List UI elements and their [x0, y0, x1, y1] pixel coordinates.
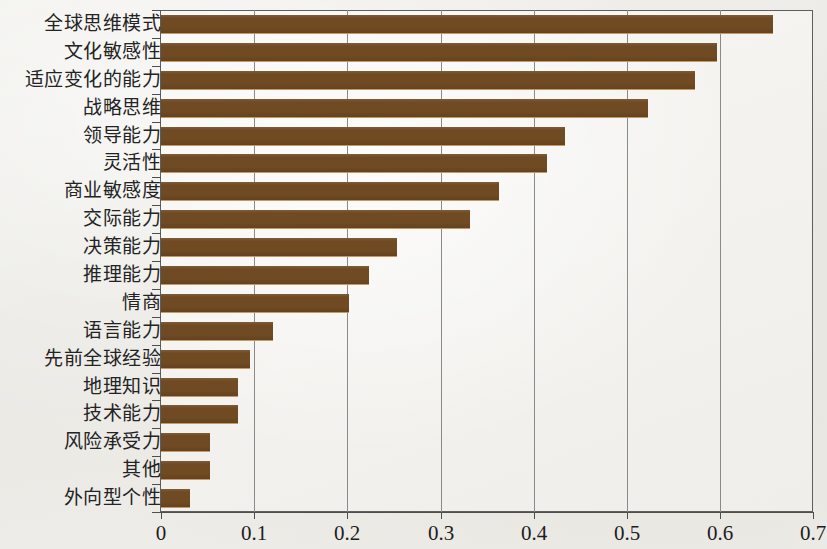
- bar: [161, 378, 238, 397]
- bar: [161, 489, 190, 508]
- y-axis-label: 适应变化的能力: [25, 70, 162, 89]
- x-axis-tick-label: 0.4: [504, 521, 564, 545]
- bar: [161, 266, 369, 285]
- y-axis-label: 战略思维: [83, 98, 161, 117]
- y-axis-tick: [152, 373, 161, 374]
- x-axis-tick-label: 0.5: [597, 521, 657, 545]
- bar: [161, 350, 250, 369]
- x-axis-tick-label: 0.3: [411, 521, 471, 545]
- y-axis-label: 先前全球经验: [44, 349, 161, 368]
- y-axis-label: 决策能力: [83, 237, 161, 256]
- y-axis-label: 推理能力: [83, 265, 161, 284]
- y-axis-tick: [152, 177, 161, 178]
- y-axis-label: 风险承受力: [64, 432, 162, 451]
- y-axis-tick: [152, 484, 161, 485]
- x-axis-line: [160, 512, 813, 513]
- y-axis-tick: [152, 233, 161, 234]
- y-axis-tick: [152, 456, 161, 457]
- bar: [161, 182, 499, 201]
- y-axis-tick: [152, 400, 161, 401]
- x-axis-tick-label: 0.7: [783, 521, 827, 545]
- y-axis-tick: [152, 428, 161, 429]
- bar: [161, 322, 273, 341]
- y-axis-tick: [152, 66, 161, 67]
- y-axis-label: 外向型个性: [64, 488, 162, 507]
- bar: [161, 127, 565, 146]
- y-axis-label: 灵活性: [103, 153, 162, 172]
- y-axis-label: 地理知识: [83, 377, 161, 396]
- x-axis-tick: [534, 512, 535, 519]
- x-axis-tick: [813, 512, 814, 519]
- bar: [161, 43, 717, 62]
- bar: [161, 238, 397, 257]
- bar: [161, 15, 773, 34]
- y-axis-tick: [152, 122, 161, 123]
- horizontal-bar-chart: 全球思维模式文化敏感性适应变化的能力战略思维领导能力灵活性商业敏感度交际能力决策…: [0, 0, 827, 549]
- x-axis-tick: [720, 512, 721, 519]
- y-axis-tick: [152, 289, 161, 290]
- gridline: [720, 10, 721, 512]
- x-axis-tick: [161, 512, 162, 519]
- x-axis-tick-label: 0.1: [224, 521, 284, 545]
- x-axis-tick: [441, 512, 442, 519]
- y-axis-tick: [152, 345, 161, 346]
- bar: [161, 461, 210, 480]
- y-axis-tick: [152, 38, 161, 39]
- x-axis-tick: [254, 512, 255, 519]
- x-axis-tick: [347, 512, 348, 519]
- y-axis-label: 交际能力: [83, 209, 161, 228]
- y-axis-label: 情商: [122, 293, 161, 312]
- bar: [161, 154, 547, 173]
- y-axis-label: 语言能力: [83, 321, 161, 340]
- bar: [161, 99, 648, 118]
- x-axis-tick-label: 0: [131, 521, 191, 545]
- y-axis-label: 其他: [122, 460, 161, 479]
- y-axis-label: 领导能力: [83, 126, 161, 145]
- y-axis-tick: [152, 149, 161, 150]
- y-axis-label: 文化敏感性: [64, 42, 162, 61]
- y-axis-tick: [152, 10, 161, 11]
- y-axis-tick: [152, 205, 161, 206]
- y-axis-label: 商业敏感度: [64, 181, 162, 200]
- x-axis-tick-label: 0.6: [690, 521, 750, 545]
- bar: [161, 71, 695, 90]
- x-axis-tick-label: 0.2: [317, 521, 377, 545]
- y-axis-tick: [152, 317, 161, 318]
- y-axis-label: 全球思维模式: [44, 14, 161, 33]
- x-axis-tick: [627, 512, 628, 519]
- y-axis-tick: [152, 94, 161, 95]
- y-axis-label: 技术能力: [83, 404, 161, 423]
- bar: [161, 405, 238, 424]
- bar: [161, 433, 210, 452]
- bar: [161, 210, 470, 229]
- y-axis-tick: [152, 261, 161, 262]
- bar: [161, 294, 349, 313]
